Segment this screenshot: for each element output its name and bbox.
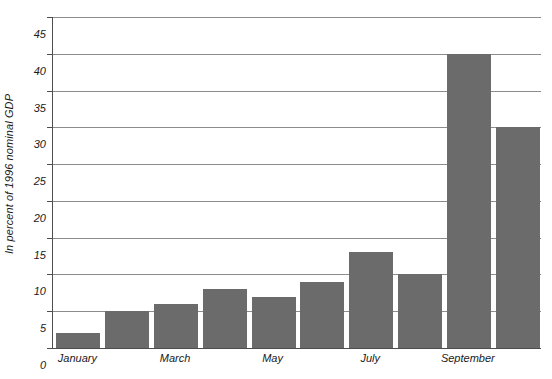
x-axis-tick-label: May — [262, 352, 283, 364]
bar — [203, 289, 247, 348]
y-axis-tick — [47, 17, 52, 18]
y-axis-tick-label: 15 — [6, 249, 46, 261]
x-axis-tick-label: September — [441, 352, 495, 364]
y-axis-tick-label: 30 — [6, 138, 46, 150]
y-axis-tick — [47, 274, 52, 275]
x-axis-tick-labels: JanuaryMarchMayJulySeptember — [52, 350, 540, 374]
x-axis-tick-label: March — [160, 352, 191, 364]
y-axis-tick — [47, 238, 52, 239]
plot-area — [52, 17, 541, 349]
bar — [154, 304, 198, 348]
y-axis-tick-label: 10 — [6, 285, 46, 297]
bar-chart: In percent of 1996 nominal GDP 051015202… — [0, 0, 552, 379]
y-axis-tick-label: 20 — [6, 212, 46, 224]
bar — [496, 127, 540, 348]
y-axis-tick-label: 0 — [6, 359, 46, 371]
y-axis-tick — [47, 201, 52, 202]
y-axis-tick-labels: 051015202530354045 — [0, 17, 46, 348]
gridline — [53, 17, 541, 18]
bar — [56, 333, 100, 348]
bar — [105, 311, 149, 348]
y-axis-tick — [47, 91, 52, 92]
bar — [349, 252, 393, 348]
y-axis-tick-label: 40 — [6, 65, 46, 77]
y-axis-tick — [47, 54, 52, 55]
y-axis-tick — [47, 164, 52, 165]
x-axis-tick-label: July — [360, 352, 380, 364]
bar — [398, 274, 442, 348]
bar — [252, 297, 296, 348]
y-axis-tick — [47, 127, 52, 128]
y-axis-tick-label: 25 — [6, 175, 46, 187]
bar — [447, 54, 491, 348]
y-axis-tick — [47, 348, 52, 349]
y-axis-tick — [47, 311, 52, 312]
bar — [300, 282, 344, 348]
x-axis-tick-label: January — [58, 352, 97, 364]
y-axis-tick-label: 45 — [6, 28, 46, 40]
y-axis-tick-label: 35 — [6, 102, 46, 114]
y-axis-tick-label: 5 — [6, 322, 46, 334]
